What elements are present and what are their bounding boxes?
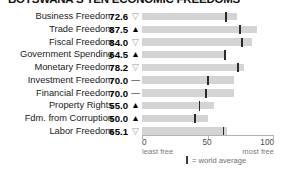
chart-row: Trade Freedom87.5▲ xyxy=(0,24,282,37)
row-score-value: 84.0 xyxy=(104,37,128,48)
value-bar xyxy=(142,64,244,71)
trend-down-icon: ▽ xyxy=(130,62,141,73)
row-label: Labor Freedom xyxy=(0,126,113,137)
value-bar xyxy=(142,51,226,58)
trend-up-icon: ▲ xyxy=(130,100,141,111)
bar-track xyxy=(142,26,273,34)
row-label: Financial Freedom xyxy=(0,88,113,99)
world-average-tick xyxy=(207,76,209,85)
value-bar xyxy=(142,38,252,45)
economic-freedoms-chart: BOTSWANA'S TEN ECONOMIC FREEDOMS Busines… xyxy=(0,0,282,171)
trend-up-icon: ▲ xyxy=(130,113,141,124)
chart-row: Financial Freedom70.0— xyxy=(0,88,282,101)
world-average-tick xyxy=(241,38,243,47)
world-average-tick xyxy=(225,12,227,21)
legend-label: = world average xyxy=(192,156,246,165)
row-score-value: 50.0 xyxy=(104,113,128,124)
row-label: Fdm. from Corruption xyxy=(0,113,113,124)
world-average-tick xyxy=(199,101,201,110)
trend-down-icon: ▽ xyxy=(130,37,141,48)
chart-title: BOTSWANA'S TEN ECONOMIC FREEDOMS xyxy=(8,0,276,5)
world-average-tick xyxy=(224,50,226,59)
axis-tick-label: 50 xyxy=(203,138,212,147)
chart-row: Fiscal Freedom84.0▽ xyxy=(0,37,282,50)
row-label: Fiscal Freedom xyxy=(0,37,113,48)
chart-row: Government Spending64.5▲ xyxy=(0,49,282,62)
value-bar xyxy=(142,102,214,109)
value-bar xyxy=(142,13,237,20)
chart-row: Property Rights55.0▲ xyxy=(0,100,282,113)
chart-row: Monetary Freedom78.2▽ xyxy=(0,62,282,75)
chart-row: Business Freedom72.6▽ xyxy=(0,11,282,24)
bar-track xyxy=(142,115,273,123)
world-average-tick xyxy=(194,114,196,123)
trend-up-icon: ▲ xyxy=(130,24,141,35)
value-bar xyxy=(142,115,208,122)
row-score-value: 72.6 xyxy=(104,11,128,22)
value-bar xyxy=(142,89,234,96)
bar-track xyxy=(142,13,273,21)
world-average-tick xyxy=(205,89,207,98)
axis-tick-label: 100 xyxy=(260,138,274,147)
trend-flat-icon: — xyxy=(130,88,141,99)
trend-up-icon: ▲ xyxy=(130,49,141,60)
bar-track xyxy=(142,89,273,97)
bar-track xyxy=(142,76,273,84)
world-average-tick xyxy=(239,25,241,34)
bar-track xyxy=(142,102,273,110)
row-score-value: 87.5 xyxy=(104,24,128,35)
axis-end-caption: most free xyxy=(242,147,274,156)
trend-flat-icon: — xyxy=(130,75,141,86)
row-label: Government Spending xyxy=(0,49,113,60)
bar-track xyxy=(142,64,273,72)
value-bar xyxy=(142,76,234,83)
world-average-marker-icon xyxy=(186,156,188,165)
chart-row: Fdm. from Corruption50.0▲ xyxy=(0,113,282,126)
row-score-value: 55.0 xyxy=(104,100,128,111)
value-bar xyxy=(142,127,227,134)
axis-tick-label: 0 xyxy=(142,138,147,147)
trend-down-icon: ▽ xyxy=(130,126,141,137)
bar-track xyxy=(142,51,273,59)
row-label: Investment Freedom xyxy=(0,75,113,86)
row-score-value: 70.0 xyxy=(104,75,128,86)
chart-row: Labor Freedom65.1▽ xyxy=(0,126,282,139)
world-average-tick xyxy=(237,63,239,72)
row-score-value: 64.5 xyxy=(104,49,128,60)
chart-row: Investment Freedom70.0— xyxy=(0,75,282,88)
row-label: Trade Freedom xyxy=(0,24,113,35)
row-label: Property Rights xyxy=(0,100,113,111)
row-score-value: 78.2 xyxy=(104,62,128,73)
row-score-value: 70.0 xyxy=(104,88,128,99)
row-score-value: 65.1 xyxy=(104,126,128,137)
row-label: Monetary Freedom xyxy=(0,62,113,73)
bar-track xyxy=(142,38,273,46)
row-label: Business Freedom xyxy=(0,11,113,22)
axis-end-caption: least free xyxy=(142,147,173,156)
trend-down-icon: ▽ xyxy=(130,11,141,22)
